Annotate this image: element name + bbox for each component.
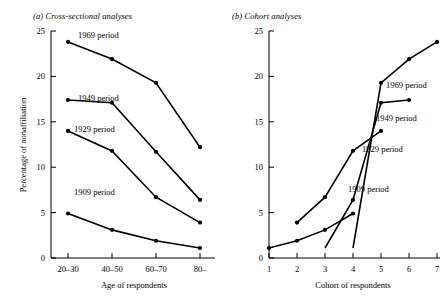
panel-a-y-tick-label: 0 bbox=[41, 253, 45, 263]
panel-b-data-point bbox=[379, 101, 383, 105]
panel-b-series-label: 1949 period bbox=[376, 113, 418, 123]
panel-b-plot: 05101520251234567Cohort of respondents19… bbox=[223, 0, 446, 301]
panel-a-series-label: 1969 period bbox=[78, 30, 120, 40]
panel-b-data-point bbox=[407, 57, 411, 61]
panel-b-x-tick-label: 3 bbox=[323, 264, 327, 274]
panel-cross-sectional: (a) Cross-sectional analyses 05101520252… bbox=[0, 0, 223, 301]
panel-a-y-axis-title: Percentage of nonaffiliation bbox=[18, 97, 28, 192]
panel-a-data-point bbox=[198, 220, 202, 224]
panel-a-y-tick-label: 25 bbox=[37, 26, 46, 36]
panel-a-data-point bbox=[110, 57, 114, 61]
panel-b-data-point bbox=[267, 246, 271, 250]
panel-a-data-point bbox=[154, 150, 158, 154]
panel-b-data-point bbox=[435, 40, 439, 44]
panel-b-data-point bbox=[379, 129, 383, 133]
panel-a-x-axis-title: Age of respondents bbox=[101, 280, 167, 290]
panel-a-series-label: 1909 period bbox=[74, 187, 116, 197]
panel-a-data-point bbox=[154, 239, 158, 243]
panel-a-x-tick-label: 40–50 bbox=[101, 264, 122, 274]
panel-a-y-tick-label: 15 bbox=[37, 117, 46, 127]
panel-a-data-point bbox=[198, 145, 202, 149]
panel-a-data-point bbox=[154, 195, 158, 199]
panel-b-x-tick-label: 7 bbox=[435, 264, 439, 274]
panel-a-plot: 051015202520–3040–5060–7080–Age of respo… bbox=[0, 0, 223, 301]
panel-b-x-tick-label: 1 bbox=[267, 264, 271, 274]
panel-a-data-point bbox=[66, 98, 70, 102]
panel-a-data-point bbox=[66, 211, 70, 215]
panel-a-data-point bbox=[154, 81, 158, 85]
panel-b-data-point bbox=[379, 81, 383, 85]
panel-b-x-tick-label: 5 bbox=[379, 264, 383, 274]
panel-b-y-tick-label: 0 bbox=[259, 253, 263, 263]
panel-a-y-tick-label: 5 bbox=[41, 208, 45, 218]
panel-b-data-point bbox=[407, 98, 411, 102]
panel-b-x-tick-label: 2 bbox=[295, 264, 299, 274]
panel-a-y-tick-label: 20 bbox=[37, 71, 46, 81]
panel-b-series-label: 1909 period bbox=[348, 184, 390, 194]
panel-a-x-tick-label: 60–70 bbox=[145, 264, 166, 274]
panel-b-y-tick-label: 25 bbox=[255, 26, 264, 36]
panel-b-x-axis-title: Cohort of respondents bbox=[315, 280, 391, 290]
panel-b-series-line bbox=[269, 214, 353, 249]
panel-b-y-tick-label: 10 bbox=[255, 162, 264, 172]
panel-a-data-point bbox=[198, 198, 202, 202]
panel-b-data-point bbox=[323, 228, 327, 232]
panel-b-data-point bbox=[295, 239, 299, 243]
panel-a-series-line bbox=[68, 214, 200, 249]
panel-b-data-point bbox=[323, 195, 327, 199]
panel-b-data-point bbox=[351, 198, 355, 202]
panel-cohort: (b) Cohort analyses 05101520251234567Coh… bbox=[223, 0, 446, 301]
panel-b-data-point bbox=[295, 220, 299, 224]
panel-a-x-tick-label: 80– bbox=[194, 264, 208, 274]
panel-a-data-point bbox=[198, 246, 202, 250]
panel-a-y-tick-label: 10 bbox=[37, 162, 46, 172]
panel-b-x-tick-label: 4 bbox=[351, 264, 356, 274]
figure-cohort-nonaffiliation: (a) Cross-sectional analyses 05101520252… bbox=[0, 0, 446, 301]
panel-b-y-tick-label: 5 bbox=[259, 208, 263, 218]
panel-b-data-point bbox=[351, 149, 355, 153]
panel-b-y-tick-label: 15 bbox=[255, 117, 264, 127]
panel-a-data-point bbox=[66, 129, 70, 133]
panel-a-series-label: 1929 period bbox=[74, 124, 116, 134]
panel-a-x-tick-label: 20–30 bbox=[57, 264, 78, 274]
panel-a-data-point bbox=[110, 149, 114, 153]
panel-b-series-label: 1969 period bbox=[386, 80, 428, 90]
panel-a-series-label: 1949 period bbox=[78, 93, 120, 103]
panel-b-y-tick-label: 20 bbox=[255, 71, 264, 81]
panel-b-data-point bbox=[351, 211, 355, 215]
panel-a-series-line bbox=[68, 100, 200, 200]
panel-a-data-point bbox=[110, 228, 114, 232]
panel-a-data-point bbox=[66, 40, 70, 44]
panel-b-series-label: 1929 period bbox=[362, 144, 404, 154]
panel-b-x-tick-label: 6 bbox=[407, 264, 411, 274]
panel-a-series-line bbox=[68, 131, 200, 223]
